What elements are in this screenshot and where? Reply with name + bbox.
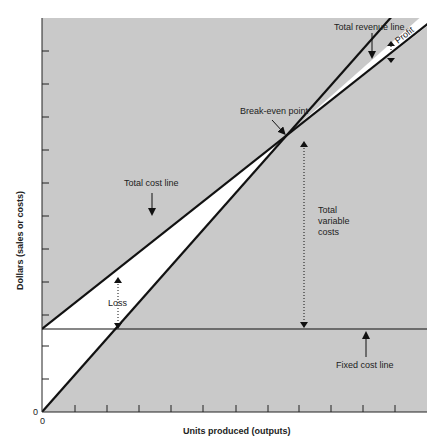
label-fixed: Fixed cost line bbox=[336, 360, 394, 370]
y-axis-label: Dollars (sales or costs) bbox=[15, 191, 25, 290]
y-origin-label: 0 bbox=[33, 407, 38, 417]
x-axis-label: Units produced (outputs) bbox=[183, 426, 291, 436]
label-revenue: Total revenue line bbox=[334, 22, 405, 32]
label-breakeven: Break-even point bbox=[240, 106, 309, 116]
label-tvc-3: costs bbox=[318, 227, 340, 237]
breakeven-chart: Total revenue line Profit Break-even poi… bbox=[0, 0, 445, 445]
label-totalcost: Total cost line bbox=[124, 178, 179, 188]
label-loss: Loss bbox=[108, 298, 128, 308]
x-origin-label: 0 bbox=[40, 416, 45, 426]
label-tvc-2: variable bbox=[318, 216, 350, 226]
label-tvc-1: Total bbox=[318, 205, 337, 215]
